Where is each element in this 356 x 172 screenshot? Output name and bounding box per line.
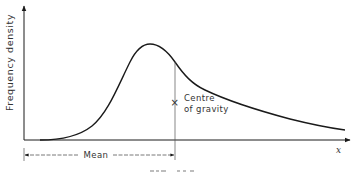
centre-of-gravity-label-line2: of gravity (184, 104, 229, 114)
centre-of-gravity-label-line1: Centre (184, 93, 215, 103)
caption-fragment (150, 170, 194, 172)
mean-label: Mean (84, 150, 109, 160)
frequency-curve (40, 44, 345, 140)
y-axis-label: Frequency density (4, 14, 15, 111)
x-axis-label: x (336, 145, 341, 155)
centre-of-gravity-marker: × (171, 97, 180, 108)
frequency-density-diagram: Frequency density x × Centre of gravity … (0, 0, 356, 172)
